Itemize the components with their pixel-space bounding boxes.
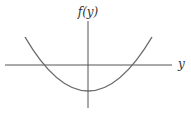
x-axis-label: y [177, 57, 185, 71]
y-axis-label: f(y) [77, 5, 99, 19]
function-graph: f(y) y [0, 0, 191, 114]
